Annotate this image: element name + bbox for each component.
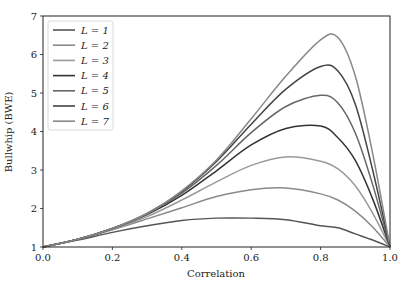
line-chart: 0.00.20.40.60.81.0 1234567 Correlation B… xyxy=(0,0,410,290)
y-tick-label: 4 xyxy=(31,126,37,137)
x-tick-label: 0.0 xyxy=(35,252,51,263)
x-tick-label: 1.0 xyxy=(382,252,398,263)
legend-label: L = 4 xyxy=(80,70,109,81)
legend-label: L = 7 xyxy=(80,116,109,127)
y-tick-label: 5 xyxy=(31,88,37,99)
y-tick-label: 3 xyxy=(31,165,37,176)
y-tick-label: 6 xyxy=(31,49,37,60)
y-axis-ticks: 1234567 xyxy=(31,11,43,253)
y-tick-label: 2 xyxy=(31,203,37,214)
x-tick-label: 0.6 xyxy=(243,252,259,263)
series-line-L1 xyxy=(43,218,390,247)
x-tick-label: 0.8 xyxy=(313,252,329,263)
x-axis-ticks: 0.00.20.40.60.81.0 xyxy=(35,247,398,263)
legend-label: L = 1 xyxy=(80,25,109,36)
x-tick-label: 0.2 xyxy=(104,252,120,263)
y-axis-label: Bullwhip (BWE) xyxy=(3,92,14,173)
legend-label: L = 3 xyxy=(80,55,109,66)
y-tick-label: 7 xyxy=(31,11,37,22)
legend-label: L = 6 xyxy=(80,101,109,112)
x-tick-label: 0.4 xyxy=(174,252,190,263)
legend-label: L = 5 xyxy=(80,85,109,96)
legend: L = 1L = 2L = 3L = 4L = 5L = 6L = 7 xyxy=(48,21,113,130)
series-line-L4 xyxy=(43,125,390,247)
legend-label: L = 2 xyxy=(80,40,109,51)
y-tick-label: 1 xyxy=(31,242,37,253)
x-axis-label: Correlation xyxy=(187,268,246,279)
